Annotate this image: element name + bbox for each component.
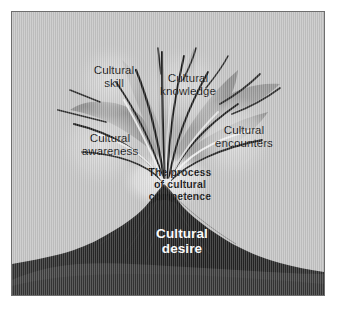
label-cultural-knowledge: Cultural knowledge	[146, 72, 230, 98]
label-line: awareness	[64, 145, 156, 158]
label-cultural-encounters: Cultural encounters	[198, 124, 290, 150]
figure-root: Cultural skill Cultural knowledge Cultur…	[0, 0, 339, 311]
label-line: Cultural	[146, 72, 230, 85]
label-line: competence	[129, 191, 231, 203]
figure-plate: Cultural skill Cultural knowledge Cultur…	[11, 11, 325, 296]
label-cultural-awareness: Cultural awareness	[64, 132, 156, 158]
label-line: Cultural	[198, 124, 290, 137]
label-line: skill	[78, 77, 150, 90]
label-line: encounters	[198, 137, 290, 150]
label-line: desire	[136, 241, 228, 256]
label-line: of cultural	[129, 179, 231, 191]
label-cultural-desire: Cultural desire	[136, 226, 228, 256]
label-line: knowledge	[146, 85, 230, 98]
label-line: Cultural	[64, 132, 156, 145]
label-line: Cultural	[78, 64, 150, 77]
label-core-process: The process of cultural competence	[129, 167, 231, 202]
label-line: Cultural	[136, 226, 228, 241]
label-cultural-skill: Cultural skill	[78, 64, 150, 90]
label-line: The process	[129, 167, 231, 179]
